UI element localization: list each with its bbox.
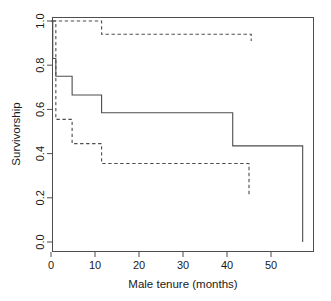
y-axis-title: Survivorship — [10, 102, 22, 165]
x-axis-title: Male tenure (months) — [128, 278, 237, 290]
y-tick-label-0.2: 0.2 — [34, 190, 46, 205]
x-tick-label-20: 20 — [133, 259, 145, 271]
x-tick-marks — [51, 252, 271, 257]
series-layer — [51, 21, 303, 242]
x-tick-label-40: 40 — [221, 259, 233, 271]
upper-confidence-curve — [53, 21, 251, 41]
y-tick-labels: 1.0 0.8 0.6 0.4 0.2 0.0 — [34, 13, 46, 249]
plot-panel-border — [53, 18, 314, 252]
survivorship-curve — [51, 21, 303, 242]
plot-canvas: 1.0 0.8 0.6 0.4 0.2 0.0 Survivorship 0 1… — [0, 0, 331, 301]
lower-confidence-curve — [53, 21, 249, 196]
y-tick-label-0.8: 0.8 — [34, 58, 46, 73]
x-tick-label-0: 0 — [48, 259, 54, 271]
y-tick-marks — [47, 21, 52, 242]
y-tick-label-1.0: 1.0 — [34, 13, 46, 28]
y-tick-label-0.0: 0.0 — [34, 234, 46, 249]
x-tick-label-10: 10 — [89, 259, 101, 271]
y-tick-label-0.6: 0.6 — [34, 102, 46, 117]
x-tick-label-30: 30 — [177, 259, 189, 271]
y-tick-label-0.4: 0.4 — [34, 146, 46, 161]
survivorship-figure: 1.0 0.8 0.6 0.4 0.2 0.0 Survivorship 0 1… — [0, 0, 331, 301]
x-tick-label-50: 50 — [265, 259, 277, 271]
x-tick-labels: 0 10 20 30 40 50 — [48, 259, 277, 271]
